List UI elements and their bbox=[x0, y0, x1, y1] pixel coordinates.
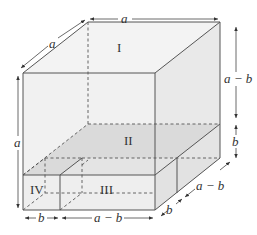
label-bottom-left: b bbox=[38, 210, 45, 225]
label-bottom-right: a − b bbox=[94, 210, 123, 225]
label-top-depth: a bbox=[49, 36, 56, 51]
label-right-upper: a − b bbox=[224, 71, 253, 86]
dimension-bottom-left: b bbox=[25, 210, 58, 225]
region-label-IV: IV bbox=[30, 182, 44, 197]
dimension-right-lower: b bbox=[232, 125, 239, 158]
label-right-lower: b bbox=[232, 134, 239, 149]
cube-decomposition-diagram: I II III IV a a a a − b b b a bbox=[0, 0, 257, 235]
dimension-right-upper: a − b bbox=[224, 27, 253, 118]
region-label-II: II bbox=[124, 133, 133, 148]
dimension-left-height: a bbox=[14, 76, 21, 208]
label-depth-back: a − b bbox=[196, 178, 225, 193]
label-top-width: a bbox=[121, 11, 128, 26]
region-label-I: I bbox=[117, 40, 121, 55]
label-depth-front: b bbox=[166, 202, 173, 217]
region-label-III: III bbox=[100, 182, 113, 197]
dimension-bottom-right: a − b bbox=[62, 210, 153, 225]
label-left-height: a bbox=[14, 135, 21, 150]
